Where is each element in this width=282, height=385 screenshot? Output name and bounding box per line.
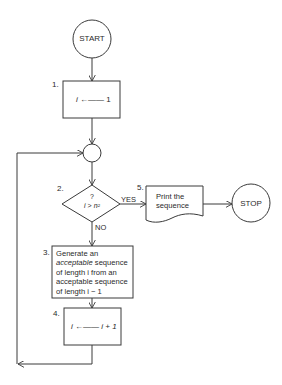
step2-rhs: n² <box>94 202 100 209</box>
step4-expression: i ←—— i + 1 <box>71 322 117 331</box>
step5-line1: Print the <box>156 192 189 201</box>
step3-line2: acceptable sequence <box>56 258 128 267</box>
step4-value: i + 1 <box>101 322 116 331</box>
step1-expression: i ←—— 1 <box>76 95 111 104</box>
step2-condition: i > n² <box>72 201 112 210</box>
assign-arrow-icon: ←—— <box>80 95 104 104</box>
stop-label: STOP <box>232 199 270 208</box>
step4-var: i <box>71 322 73 331</box>
no-label: NO <box>95 223 106 232</box>
step3-line5: of length i − 1 <box>56 287 128 296</box>
step3-line4: acceptable sequence <box>56 277 128 286</box>
step1-value: 1 <box>106 95 110 104</box>
step3-line1: Generate an <box>56 249 128 258</box>
step2-question: ? <box>82 192 102 201</box>
step2-op: > <box>88 202 92 209</box>
step1-number: 1. <box>52 80 59 89</box>
step4-number: 4. <box>53 309 60 318</box>
step2-var: i <box>84 202 86 209</box>
step5-number: 5. <box>137 183 144 192</box>
step3-text: Generate an acceptable sequence of lengt… <box>56 249 128 296</box>
loop-line-bottom <box>18 345 92 364</box>
step3-line3: of length i from an <box>56 268 128 277</box>
step5-line2: sequence <box>156 201 189 210</box>
assign-arrow-icon: ←—— <box>75 322 99 331</box>
flowchart-canvas <box>0 0 282 385</box>
step2-number: 2. <box>57 184 64 193</box>
junction-node <box>83 144 101 162</box>
step1-var: i <box>76 95 78 104</box>
step5-text: Print the sequence <box>156 192 189 211</box>
step3-acceptable: acceptable <box>56 258 93 267</box>
step3-line2-rest: sequence <box>93 258 128 267</box>
start-label: START <box>73 34 111 43</box>
yes-label: YES <box>121 195 136 204</box>
step3-number: 3. <box>43 248 50 257</box>
